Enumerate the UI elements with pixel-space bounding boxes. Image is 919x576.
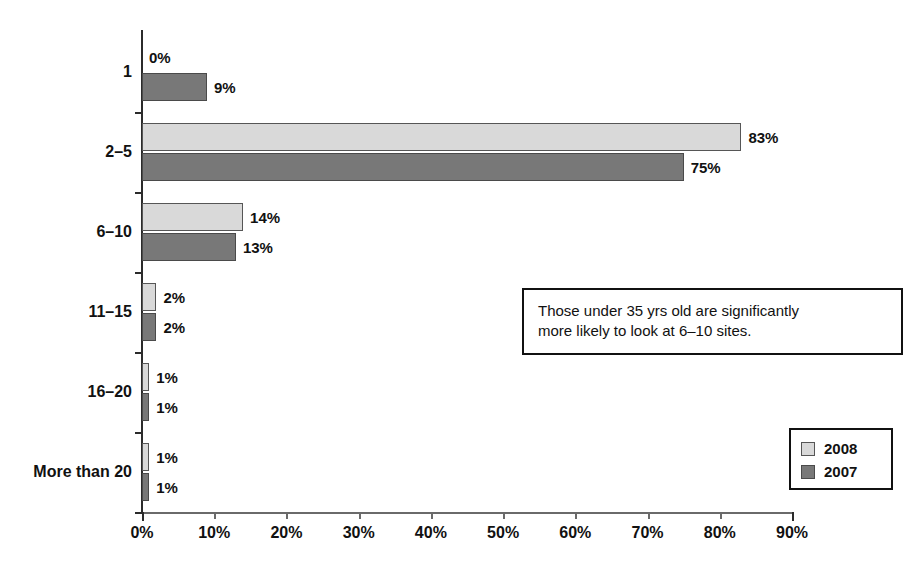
x-axis-tick-label: 60% (559, 524, 591, 542)
x-axis-tick (142, 512, 144, 521)
legend-item-2007[interactable]: 2007 (801, 460, 891, 483)
bar-value-label: 1% (156, 449, 178, 466)
x-axis-tick (792, 512, 794, 521)
bar-2008[interactable] (142, 363, 149, 391)
bar-row: 1% (142, 363, 792, 391)
chart-legend: 2008 2007 (789, 428, 893, 490)
legend-label-2007: 2007 (824, 463, 857, 480)
category-group: 6–1014%13% (142, 192, 792, 272)
bar-value-label: 1% (156, 369, 178, 386)
y-axis-category-label: 11–15 (88, 304, 132, 320)
bar-value-label: 2% (163, 289, 185, 306)
bar-value-label: 1% (156, 479, 178, 496)
category-group: 2–583%75% (142, 112, 792, 192)
annotation-callout: Those under 35 yrs old are significantly… (522, 288, 903, 355)
bar-2007[interactable] (142, 313, 156, 341)
bar-2008[interactable] (142, 123, 741, 151)
x-axis-tick-label: 50% (487, 524, 519, 542)
x-axis-tick-label: 0% (130, 524, 153, 542)
y-axis-tick (135, 272, 142, 274)
bar-row: 0% (142, 43, 792, 71)
y-axis-category-label: 6–10 (96, 224, 132, 240)
x-axis-tick-label: 30% (343, 524, 375, 542)
x-axis-tick (431, 512, 433, 519)
y-axis-tick (135, 352, 142, 354)
x-axis-tick-label: 40% (415, 524, 447, 542)
legend-swatch-2008-icon (801, 442, 815, 456)
bar-2007[interactable] (142, 73, 207, 101)
category-group: 10%9% (142, 32, 792, 112)
bar-row: 1% (142, 473, 792, 501)
y-axis-category-label: More than 20 (33, 464, 132, 480)
y-axis-tick (135, 192, 142, 194)
bar-value-label: 75% (691, 159, 721, 176)
bar-2008[interactable] (142, 443, 149, 471)
legend-item-2008[interactable]: 2008 (801, 437, 891, 460)
x-axis-tick (720, 512, 722, 519)
x-axis-tick (359, 512, 361, 519)
bar-2007[interactable] (142, 233, 236, 261)
x-axis-tick-label: 90% (776, 524, 808, 542)
bar-2007[interactable] (142, 473, 149, 501)
x-axis-tick (214, 512, 216, 519)
plot-area: 10%9%2–583%75%6–1014%13%11–152%2%16–201%… (142, 32, 792, 512)
category-group: 16–201%1% (142, 352, 792, 432)
bar-value-label: 1% (156, 399, 178, 416)
bar-value-label: 2% (163, 319, 185, 336)
bar-row: 75% (142, 153, 792, 181)
bar-row: 9% (142, 73, 792, 101)
bar-row: 13% (142, 233, 792, 261)
x-axis-tick-label: 80% (704, 524, 736, 542)
chart-container: 10%9%2–583%75%6–1014%13%11–152%2%16–201%… (0, 0, 919, 576)
legend-label-2008: 2008 (824, 440, 857, 457)
y-axis-category-label: 16–20 (88, 384, 133, 400)
category-group: More than 201%1% (142, 432, 792, 512)
bar-2007[interactable] (142, 393, 149, 421)
bar-2008[interactable] (142, 283, 156, 311)
x-axis-tick-label: 10% (198, 524, 230, 542)
x-axis-tick (575, 512, 577, 519)
bar-2007[interactable] (142, 153, 684, 181)
bar-row: 83% (142, 123, 792, 151)
y-axis-category-label: 2–5 (105, 144, 132, 160)
bar-value-label: 14% (250, 209, 280, 226)
bar-row: 1% (142, 443, 792, 471)
x-axis-tick (503, 512, 505, 519)
x-axis-line (142, 512, 794, 514)
bar-row: 14% (142, 203, 792, 231)
x-axis-tick (286, 512, 288, 519)
legend-swatch-2007-icon (801, 465, 815, 479)
annotation-line-2: more likely to look at 6–10 sites. (538, 321, 887, 341)
y-axis-category-label: 1 (123, 64, 132, 80)
bar-value-label: 9% (214, 79, 236, 96)
annotation-line-1: Those under 35 yrs old are significantly (538, 301, 887, 321)
bar-value-label: 0% (149, 49, 171, 66)
bar-value-label: 13% (243, 239, 273, 256)
x-axis-tick-label: 20% (270, 524, 302, 542)
y-axis-tick (135, 432, 142, 434)
bar-value-label: 83% (748, 129, 778, 146)
x-axis-tick (648, 512, 650, 519)
bar-row: 1% (142, 393, 792, 421)
bar-2008[interactable] (142, 203, 243, 231)
x-axis-tick-label: 70% (632, 524, 664, 542)
y-axis-tick (135, 112, 142, 114)
y-axis-tick (135, 512, 142, 514)
